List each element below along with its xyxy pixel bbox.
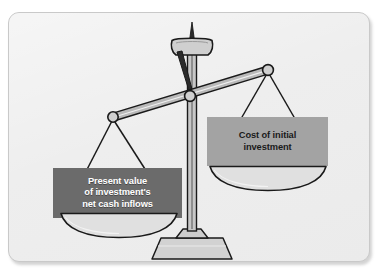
right-arm-end-knob [263,65,274,76]
pivot-knob [185,91,196,102]
scale-pans-layer [0,0,387,276]
left-pan [61,214,177,238]
figure-root: Cost of initialinvestment Present valueo… [0,0,387,276]
left-arm-end-knob [108,112,118,122]
right-pan [210,167,326,191]
